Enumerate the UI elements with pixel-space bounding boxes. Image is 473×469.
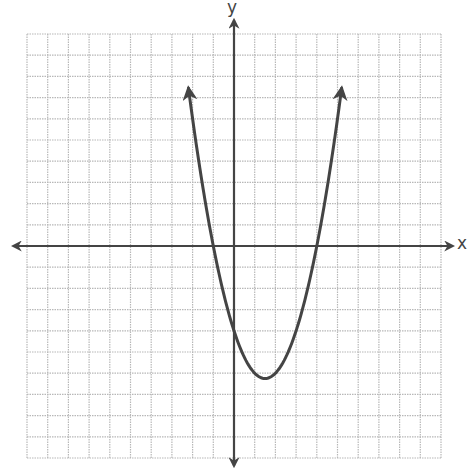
y-axis-label: y: [227, 0, 237, 17]
parabola-curve: [188, 88, 341, 378]
coordinate-plane: [0, 0, 473, 469]
axes: [13, 20, 453, 466]
x-axis-label: x: [457, 233, 467, 253]
